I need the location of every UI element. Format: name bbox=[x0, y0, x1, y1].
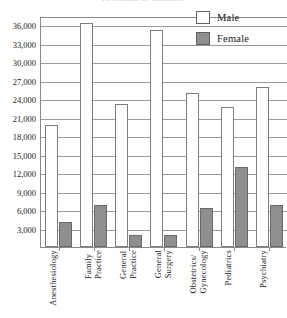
x-axis-category-label: Anesthesiology bbox=[49, 250, 59, 306]
y-tick-label: 15,000 bbox=[13, 152, 36, 161]
bar-group bbox=[146, 16, 181, 247]
y-tick-label: 33,000 bbox=[13, 41, 36, 50]
y-axis-labels: 3,0006,0009,00012,00015,00018,00021,0002… bbox=[0, 0, 39, 250]
legend-label-male: Male bbox=[217, 12, 239, 23]
bar-male bbox=[150, 30, 163, 247]
bar-group bbox=[111, 16, 146, 247]
x-axis-category-label: Pediatrics bbox=[224, 250, 234, 286]
x-axis-category-label: General Practice bbox=[119, 250, 138, 279]
y-tick-label: 12,000 bbox=[13, 170, 36, 179]
bar-female bbox=[59, 222, 72, 247]
y-tick-label: 24,000 bbox=[13, 96, 36, 105]
y-tick-label: 9,000 bbox=[17, 189, 36, 198]
x-axis-category-label: General Surgery bbox=[154, 250, 173, 278]
bar-male bbox=[186, 93, 199, 247]
x-axis-labels: AnesthesiologyFamily PracticeGeneral Pra… bbox=[40, 250, 286, 318]
y-tick-label: 21,000 bbox=[13, 115, 36, 124]
bar-male bbox=[115, 104, 128, 247]
x-axis-category-label: Obstetrics/ Gynecology bbox=[189, 250, 208, 294]
bar-chart: Physicians by Specialty 3,0006,0009,0001… bbox=[0, 0, 287, 318]
bar-female bbox=[270, 205, 283, 248]
x-axis-category-label: Psychiatry bbox=[259, 250, 269, 288]
x-axis-category-label: Family Practice bbox=[84, 250, 103, 279]
bar-male bbox=[45, 125, 58, 247]
bar-female bbox=[200, 208, 213, 247]
y-tick-label: 30,000 bbox=[13, 59, 36, 68]
legend-label-female: Female bbox=[217, 33, 249, 44]
y-tick-label: 36,000 bbox=[13, 22, 36, 31]
legend-swatch-male bbox=[196, 11, 210, 24]
y-tick-label: 18,000 bbox=[13, 133, 36, 142]
bar-male bbox=[80, 23, 93, 247]
y-tick-label: 27,000 bbox=[13, 78, 36, 87]
bar-group bbox=[41, 16, 76, 247]
bar-female bbox=[235, 167, 248, 247]
chart-title-partial: Physicians by Specialty bbox=[0, 0, 287, 1]
legend-item-male: Male bbox=[196, 11, 284, 24]
bar-male bbox=[256, 87, 269, 247]
legend: Male Female bbox=[196, 11, 284, 53]
legend-swatch-female bbox=[196, 32, 210, 45]
bar-female bbox=[164, 235, 177, 247]
bar-group bbox=[76, 16, 111, 247]
y-tick-label: 6,000 bbox=[17, 207, 36, 216]
y-tick-label: 3,000 bbox=[17, 226, 36, 235]
bar-female bbox=[94, 205, 107, 248]
bar-male bbox=[221, 107, 234, 247]
legend-item-female: Female bbox=[196, 32, 284, 45]
bar-female bbox=[129, 235, 142, 247]
